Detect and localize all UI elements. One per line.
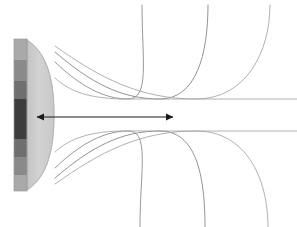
band-lower-mid xyxy=(14,157,27,175)
beam-diagram-svg xyxy=(0,0,297,227)
diagram-canvas: Focused ultrasound transducer beam profi… xyxy=(0,0,297,227)
band-lower-dark xyxy=(14,139,27,157)
band-upper-mid xyxy=(14,60,27,81)
band-core-dark xyxy=(14,99,27,139)
band-upper-dark xyxy=(14,81,27,99)
band-bottom-light xyxy=(14,175,27,191)
band-top-light xyxy=(14,39,27,60)
transducer-stack xyxy=(14,39,27,191)
